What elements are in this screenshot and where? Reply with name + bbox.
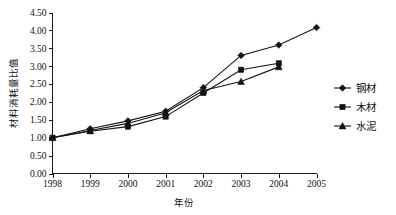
x-tick-label: 2001 — [156, 179, 175, 189]
x-tick-label: 1998 — [43, 179, 62, 189]
y-axis-title: 材料消耗量比值 — [8, 58, 19, 128]
data-series — [49, 24, 320, 141]
data-point-marker — [238, 67, 243, 72]
y-tick-label: 2.50 — [30, 79, 47, 89]
y-tick-label: 1.00 — [30, 133, 47, 143]
y-tick-label: 3.50 — [30, 44, 47, 54]
x-tick-label: 2003 — [232, 179, 251, 189]
line-chart: 0.000.501.001.502.002.503.003.504.004.50… — [0, 0, 396, 215]
series-line — [53, 67, 279, 138]
x-tick-label: 1999 — [81, 179, 100, 189]
legend-entry[interactable]: 木材 — [334, 101, 377, 113]
series-line — [53, 63, 279, 137]
legend-entry[interactable]: 水泥 — [334, 120, 377, 132]
data-series-layer — [49, 24, 320, 141]
x-tick-label: 2005 — [307, 179, 326, 189]
x-axis-tick-labels: 19981999200020012002200320042005 — [43, 179, 326, 189]
y-tick-label: 4.00 — [30, 26, 47, 36]
data-series — [49, 63, 282, 140]
y-tick-label: 1.50 — [30, 115, 47, 125]
chart-figure: 0.000.501.001.502.002.503.003.504.004.50… — [0, 0, 396, 215]
x-tick-label: 2004 — [269, 179, 288, 189]
data-point-marker — [238, 78, 245, 84]
y-axis-tick-labels: 0.000.501.001.502.002.503.003.504.004.50 — [30, 8, 47, 179]
data-point-marker — [275, 42, 282, 49]
y-tick-label: 0.50 — [30, 151, 47, 161]
x-axis-title: 年份 — [174, 197, 194, 208]
data-point-marker — [340, 104, 345, 109]
legend-label: 水泥 — [356, 120, 377, 132]
x-axis-tick-marks — [54, 174, 318, 178]
y-tick-label: 4.50 — [30, 8, 47, 18]
y-tick-label: 3.00 — [30, 62, 47, 72]
legend-label: 钢材 — [356, 82, 377, 94]
y-axis-tick-marks — [49, 14, 53, 175]
data-point-marker — [339, 85, 346, 92]
chart-legend: 钢材木材水泥 — [334, 82, 377, 132]
legend-entry[interactable]: 钢材 — [334, 82, 377, 94]
y-tick-label: 0.00 — [30, 169, 47, 179]
data-series — [50, 61, 281, 141]
x-tick-label: 2000 — [118, 179, 137, 189]
data-point-marker — [313, 24, 320, 31]
legend-label: 木材 — [356, 101, 377, 113]
y-tick-label: 2.00 — [30, 97, 47, 107]
x-tick-label: 2002 — [194, 179, 213, 189]
